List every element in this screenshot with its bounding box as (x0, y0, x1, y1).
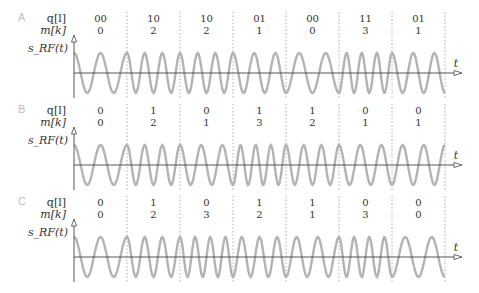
q-value: 10 (147, 13, 160, 24)
panel-letter: C (18, 195, 26, 207)
q-value: 1 (150, 105, 156, 116)
m-value: 2 (150, 25, 156, 36)
panel-letter: B (18, 103, 25, 115)
m-value: 3 (203, 209, 209, 220)
m-value: 1 (415, 25, 421, 36)
y-axis-arrow-icon (72, 127, 77, 134)
q-value: 0 (362, 105, 368, 116)
y-axis-arrow-icon (72, 219, 77, 226)
m-value: 2 (203, 25, 209, 36)
q-value: 0 (415, 105, 421, 116)
x-axis-arrow-icon (454, 163, 462, 168)
q-value: 01 (412, 13, 425, 24)
m-value: 2 (150, 209, 156, 220)
time-axis-label: t (454, 57, 459, 70)
fsk-waveform-figure: Aq[l]m[k]s_RF(t)000102102011000113011tBq… (0, 0, 479, 293)
m-value: 2 (256, 209, 262, 220)
q-value: 10 (200, 13, 213, 24)
q-value: 1 (150, 197, 156, 208)
q-value: 0 (203, 197, 209, 208)
q-value: 01 (253, 13, 266, 24)
panel-a: Aq[l]m[k]s_RF(t)000102102011000113011t (18, 11, 462, 98)
m-value: 1 (256, 25, 262, 36)
q-value: 00 (94, 13, 107, 24)
m-value: 2 (150, 117, 156, 128)
m-row-label: m[k] (40, 208, 66, 221)
q-value: 1 (309, 197, 315, 208)
m-value: 3 (362, 25, 368, 36)
m-value: 0 (97, 117, 103, 128)
m-value: 0 (309, 25, 315, 36)
q-value: 00 (306, 13, 319, 24)
m-value: 1 (362, 117, 368, 128)
m-value: 0 (415, 209, 421, 220)
q-value: 1 (309, 105, 315, 116)
time-axis-label: t (454, 241, 459, 254)
time-axis-label: t (454, 149, 459, 162)
x-axis-arrow-icon (454, 71, 462, 76)
m-value: 3 (362, 209, 368, 220)
m-value: 2 (309, 117, 315, 128)
y-axis-arrow-icon (72, 35, 77, 42)
m-value: 1 (415, 117, 421, 128)
q-value: 1 (256, 105, 262, 116)
m-value: 3 (256, 117, 262, 128)
panel-letter: A (18, 11, 26, 23)
m-row-label: m[k] (40, 24, 66, 37)
m-value: 0 (97, 25, 103, 36)
signal-label: s_RF(t) (28, 226, 68, 239)
m-row-label: m[k] (40, 116, 66, 129)
q-value: 0 (97, 197, 103, 208)
q-value: 0 (97, 105, 103, 116)
m-value: 1 (309, 209, 315, 220)
panel-c: Cq[l]m[k]s_RF(t)00120312110300t (18, 195, 462, 282)
q-value: 0 (203, 105, 209, 116)
m-value: 1 (203, 117, 209, 128)
q-value: 0 (362, 197, 368, 208)
m-value: 0 (97, 209, 103, 220)
panel-b: Bq[l]m[k]s_RF(t)00120113120101t (18, 103, 462, 190)
q-value: 0 (415, 197, 421, 208)
signal-label: s_RF(t) (28, 134, 68, 147)
signal-label: s_RF(t) (28, 42, 68, 55)
x-axis-arrow-icon (454, 255, 462, 260)
q-value: 1 (256, 197, 262, 208)
q-value: 11 (359, 13, 372, 24)
